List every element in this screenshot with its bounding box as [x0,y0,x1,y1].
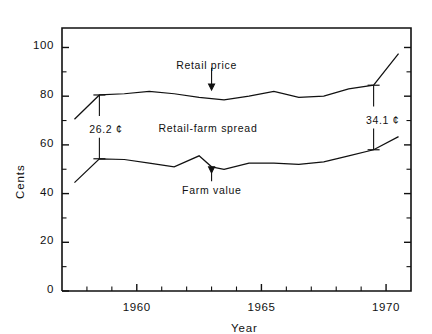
retail-price-label: Retail price [176,59,237,71]
y-tick-label-100: 100 [20,39,54,51]
y-tick-label-0: 0 [20,283,54,295]
chart-canvas [0,0,432,334]
x-tick-label-1965: 1965 [236,301,286,313]
y-tick-label-80: 80 [20,88,54,100]
spread-1969-value: 34.1 ¢ [366,114,399,126]
spread-1958-value: 26.2 ¢ [89,123,122,135]
x-axis-title: Year [231,322,258,334]
series-line-farm-value [74,137,398,183]
retail-farm-spread-label: Retail-farm spread [158,122,257,134]
retail-price-arrow-head [209,84,215,90]
x-tick-label-1970: 1970 [361,301,411,313]
farm-value-arrow-head [209,167,215,173]
chart-figure: 020406080100196019651970 Cents Year Reta… [0,0,432,334]
y-axis-title: Cents [14,165,26,200]
x-tick-label-1960: 1960 [112,301,162,313]
y-tick-label-60: 60 [20,137,54,149]
series-group [74,54,398,183]
farm-value-label: Farm value [182,184,242,196]
y-tick-label-20: 20 [20,234,54,246]
